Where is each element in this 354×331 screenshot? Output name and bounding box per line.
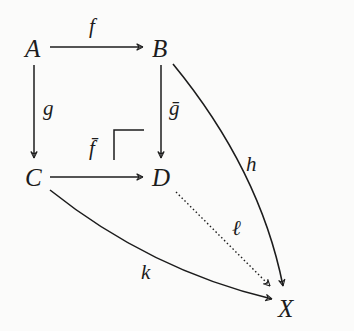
label-f: f [89, 16, 95, 37]
label-f-bar: f̄ [89, 138, 95, 159]
node-D: D [152, 165, 170, 190]
node-A: A [25, 36, 40, 61]
node-C: C [25, 165, 42, 190]
diagram-canvas [0, 0, 354, 331]
arrow-l-dotted [176, 192, 270, 286]
arrow-k [50, 190, 272, 299]
label-l: ℓ [232, 218, 241, 239]
node-B: B [152, 36, 167, 61]
label-g: g [43, 98, 54, 119]
label-g-bar: ḡ [169, 98, 180, 119]
node-X: X [278, 296, 293, 321]
label-h: h [246, 154, 257, 175]
label-k: k [141, 262, 150, 283]
pushout-corner-icon [114, 130, 144, 160]
arrow-h [173, 64, 283, 286]
